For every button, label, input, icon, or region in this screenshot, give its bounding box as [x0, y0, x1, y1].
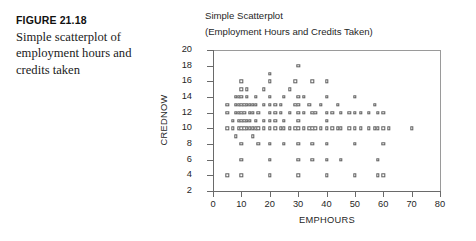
scatter-point: [311, 142, 314, 145]
scatter-point: [325, 174, 328, 177]
scatter-point: [382, 127, 385, 130]
y-axis-tick-label: 18: [168, 61, 192, 70]
scatter-point: [296, 64, 299, 67]
scatter-point: [243, 111, 246, 114]
scatter-point: [347, 127, 350, 130]
scatter-point: [296, 174, 299, 177]
chart-title: Simple Scatterplot: [205, 10, 283, 21]
scatter-point: [268, 80, 271, 83]
scatter-point: [268, 174, 271, 177]
scatter-point: [311, 80, 314, 83]
scatter-point: [296, 103, 299, 106]
scatter-point: [257, 142, 260, 145]
scatter-point: [268, 103, 271, 106]
scatterplot-figure: Simple Scatterplot (Employment Hours and…: [160, 0, 476, 241]
scatter-point: [308, 103, 311, 106]
scatter-point: [248, 119, 251, 122]
scatter-point: [262, 119, 265, 122]
scatter-point: [325, 111, 328, 114]
scatter-point: [325, 158, 328, 161]
x-axis-tick: [298, 191, 299, 197]
scatter-point: [353, 142, 356, 145]
scatter-point: [245, 87, 248, 90]
scatter-point: [302, 127, 305, 130]
scatter-point: [410, 127, 413, 130]
y-axis-tick-label: 6: [168, 155, 192, 164]
y-axis-tick: [207, 160, 213, 161]
x-axis-tick: [383, 191, 384, 197]
y-axis-tick: [207, 144, 213, 145]
y-axis-tick-label: 8: [168, 139, 192, 148]
scatter-point: [302, 95, 305, 98]
scatter-point: [359, 111, 362, 114]
y-axis-tick-label: 4: [168, 170, 192, 179]
scatter-point: [353, 111, 356, 114]
scatter-point: [225, 174, 228, 177]
scatter-point: [296, 119, 299, 122]
scatter-point: [336, 103, 339, 106]
chart-subtitle: (Employment Hours and Credits Taken): [205, 26, 373, 37]
y-axis-tick: [207, 113, 213, 114]
y-axis-tick-label: 20: [168, 45, 192, 54]
x-axis-tick: [412, 191, 413, 197]
scatter-point: [376, 174, 379, 177]
scatter-point: [254, 103, 257, 106]
x-axis-tick: [241, 191, 242, 197]
x-axis-tick: [270, 191, 271, 197]
y-axis-tick: [207, 175, 213, 176]
scatter-point: [288, 111, 291, 114]
x-axis-tick: [213, 191, 214, 197]
scatter-point: [376, 127, 379, 130]
figure-caption-block: FIGURE 21.18 Simple scatterplot of emplo…: [16, 14, 166, 78]
scatter-point: [257, 111, 260, 114]
x-axis-tick: [327, 191, 328, 197]
scatter-point: [313, 127, 316, 130]
scatter-point: [325, 95, 328, 98]
scatter-point: [282, 119, 285, 122]
scatter-point: [382, 142, 385, 145]
x-axis-label: EMPHOURS: [213, 215, 441, 225]
scatter-point: [240, 87, 243, 90]
y-axis-label: CREDNOW: [159, 94, 169, 145]
x-axis-tick-label: 30: [286, 200, 310, 209]
scatter-point: [268, 142, 271, 145]
scatter-point: [262, 127, 265, 130]
x-axis-tick-label: 50: [343, 200, 367, 209]
scatter-point: [296, 127, 299, 130]
scatter-point: [268, 72, 271, 75]
scatter-point: [251, 111, 254, 114]
scatter-point: [347, 111, 350, 114]
x-axis-tick-label: 80: [428, 200, 452, 209]
scatter-point: [240, 95, 243, 98]
scatter-point: [339, 158, 342, 161]
scatter-point: [382, 174, 385, 177]
scatter-point: [225, 103, 228, 106]
scatter-point: [319, 103, 322, 106]
scatter-point: [319, 127, 322, 130]
scatter-point: [376, 158, 379, 161]
scatter-point: [225, 127, 228, 130]
scatter-point: [296, 95, 299, 98]
scatter-point: [311, 158, 314, 161]
scatter-point: [245, 95, 248, 98]
y-axis-tick-label: 12: [168, 108, 192, 117]
y-axis-tick: [207, 50, 213, 51]
scatter-point: [296, 142, 299, 145]
scatter-point: [353, 127, 356, 130]
scatter-point: [225, 111, 228, 114]
scatter-point: [274, 127, 277, 130]
scatter-point: [359, 127, 362, 130]
scatter-point: [279, 111, 282, 114]
x-axis-tick-label: 20: [258, 200, 282, 209]
scatter-point: [325, 142, 328, 145]
scatter-point: [339, 127, 342, 130]
x-axis-tick-label: 0: [201, 200, 225, 209]
scatter-point: [353, 174, 356, 177]
scatter-point: [268, 127, 271, 130]
y-axis-tick-label: 10: [168, 123, 192, 132]
x-axis-tick-label: 10: [229, 200, 253, 209]
scatter-point: [367, 111, 370, 114]
scatter-point: [282, 127, 285, 130]
scatter-point: [288, 87, 291, 90]
scatter-point: [376, 111, 379, 114]
